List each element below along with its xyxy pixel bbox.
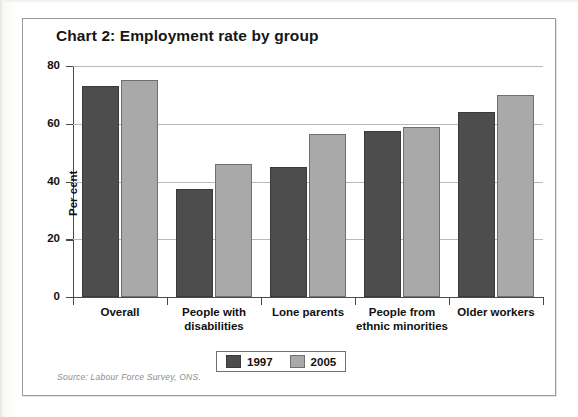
bar-2005-1 [215,164,252,297]
category-label-1: People withdisabilities [167,306,261,333]
bar-1997-3 [364,131,401,297]
chart-page: Chart 2: Employment rate by group Per ce… [0,0,578,417]
category-label-line: disabilities [167,320,261,334]
x-tick-mark [261,298,262,305]
category-label-line: Older workers [449,306,543,320]
x-tick-mark [73,298,74,305]
category-label-4: Older workers [449,306,543,320]
y-tick-mark [66,297,73,298]
legend-label-1997: 1997 [247,356,273,368]
y-tick-label: 80 [0,59,60,71]
y-tick-mark [66,239,73,240]
plot-area: Per cent [73,66,543,297]
x-tick-mark [355,298,356,305]
category-label-line: Lone parents [261,306,355,320]
y-tick-label: 60 [0,117,60,129]
category-label-line: People from [355,306,449,320]
category-label-line: People with [167,306,261,320]
bar-2005-2 [309,134,346,297]
category-label-2: Lone parents [261,306,355,320]
y-tick-mark [66,124,73,125]
bar-1997-0 [82,86,119,297]
category-label-0: Overall [73,306,167,320]
y-tick-label: 40 [0,175,60,187]
bar-2005-3 [403,127,440,297]
source-note: Source: Labour Force Survey, ONS. [57,372,201,382]
y-gridline [73,66,543,67]
category-label-3: People fromethnic minorities [355,306,449,333]
chart-legend: 19972005 [216,351,346,372]
y-tick-label: 20 [0,232,60,244]
x-tick-mark [449,298,450,305]
bar-1997-2 [270,167,307,297]
legend-entry-1997: 1997 [226,355,273,368]
x-tick-mark [167,298,168,305]
legend-entry-2005: 2005 [290,355,337,368]
y-axis-label: Per cent [67,171,79,216]
category-label-line: Overall [73,306,167,320]
bar-1997-1 [176,189,213,297]
bar-2005-0 [121,80,158,297]
bar-1997-4 [458,112,495,297]
category-label-line: ethnic minorities [355,320,449,334]
x-axis-line [73,297,544,298]
legend-swatch-1997 [226,355,241,368]
x-tick-mark [543,298,544,305]
y-tick-mark [66,66,73,67]
bar-2005-4 [497,95,534,297]
y-tick-label: 0 [0,290,60,302]
legend-label-2005: 2005 [311,356,337,368]
y-tick-mark [66,182,73,183]
legend-swatch-2005 [290,355,305,368]
chart-title: Chart 2: Employment rate by group [56,27,319,45]
